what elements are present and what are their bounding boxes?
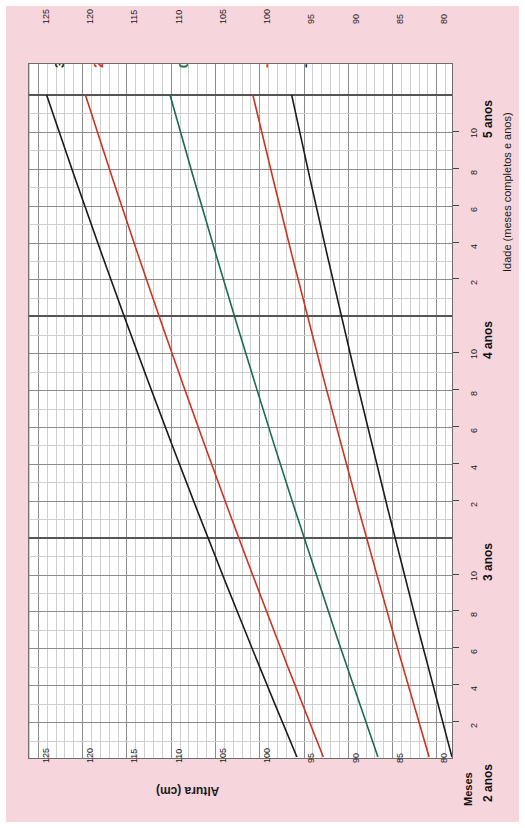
- month-tickmark: [453, 168, 459, 169]
- month-tickmark: [453, 684, 459, 685]
- chart-page: 12512011511010510095908580 320-2-3 12512…: [6, 6, 519, 822]
- month-tick-4y8m: 8: [469, 170, 479, 175]
- x-axis-title: Idade (meses completos e anos): [501, 112, 513, 272]
- month-tickmark: [453, 426, 459, 427]
- month-tick-2y6m: 6: [469, 649, 479, 654]
- month-tickmark: [453, 205, 459, 206]
- year-tick-5-anos: 5 anos: [481, 100, 495, 138]
- month-tickmark: [453, 574, 459, 575]
- month-tickmark: [453, 500, 459, 501]
- month-tickmark: [453, 352, 459, 353]
- month-tickmark: [453, 131, 459, 132]
- month-tick-2y4m: 4: [469, 686, 479, 691]
- months-axis-label: Meses: [462, 772, 474, 806]
- month-tick-4y4m: 4: [469, 244, 479, 249]
- month-tick-3y2m: 2: [469, 502, 479, 507]
- month-tickmark: [453, 647, 459, 648]
- year-tick-2-anos: 2 anos: [481, 764, 495, 802]
- y-axis-title: Altura (cm): [156, 784, 219, 798]
- month-tick-4y2m: 2: [469, 280, 479, 285]
- age-axis: 2468102468102468102 anos3 anos4 anos5 an…: [6, 6, 519, 822]
- month-tick-2y8m: 8: [469, 612, 479, 617]
- month-tick-2y10m: 10: [469, 571, 479, 581]
- month-tick-3y10m: 10: [469, 349, 479, 359]
- month-tickmark: [453, 278, 459, 279]
- month-tickmark: [453, 242, 459, 243]
- month-tickmark: [453, 463, 459, 464]
- year-tick-4-anos: 4 anos: [481, 321, 495, 359]
- month-tick-2y2m: 2: [469, 723, 479, 728]
- month-tickmark: [453, 721, 459, 722]
- year-tick-3-anos: 3 anos: [481, 543, 495, 581]
- month-tickmark: [453, 610, 459, 611]
- month-tick-3y4m: 4: [469, 465, 479, 470]
- month-tick-4y10m: 10: [469, 128, 479, 138]
- month-tick-3y8m: 8: [469, 391, 479, 396]
- month-tick-4y6m: 6: [469, 207, 479, 212]
- month-tickmark: [453, 389, 459, 390]
- month-tick-3y6m: 6: [469, 428, 479, 433]
